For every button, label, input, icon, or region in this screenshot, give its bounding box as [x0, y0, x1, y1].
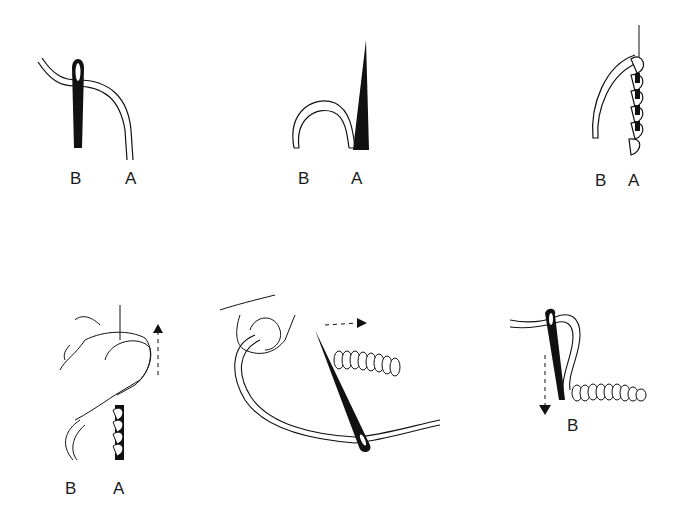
step-3-panel: B A	[585, 25, 665, 195]
label-b: B	[70, 170, 81, 187]
arrow-right-icon	[357, 318, 367, 328]
wrapped-needle-illustration	[585, 25, 665, 195]
label-b: B	[65, 480, 76, 497]
step-2-panel: B A	[285, 40, 385, 190]
pull-through-illustration	[215, 285, 455, 460]
step-5-panel	[215, 285, 455, 460]
label-b: B	[595, 172, 606, 189]
label-a: A	[125, 170, 136, 187]
finish-knot-illustration	[505, 305, 665, 440]
needle-loop-illustration	[285, 40, 385, 190]
arrow-up-icon	[153, 324, 163, 333]
thumb-hold-illustration	[55, 300, 175, 500]
label-a: A	[628, 172, 639, 189]
label-a: A	[113, 480, 124, 497]
arrow-down-icon	[539, 405, 551, 415]
step-1-panel: B A	[30, 50, 150, 190]
label-a: A	[351, 170, 362, 187]
step-4-panel: B A	[55, 300, 175, 500]
label-b: B	[567, 417, 578, 434]
step-6-panel: B	[505, 305, 665, 440]
label-b: B	[298, 170, 309, 187]
